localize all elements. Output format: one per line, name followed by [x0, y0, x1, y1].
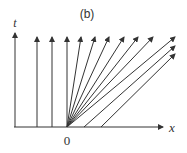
parallel-characteristics	[84, 46, 175, 127]
origin-label: 0	[64, 133, 71, 148]
fan-characteristics	[67, 37, 175, 127]
vertical-characteristics	[37, 37, 67, 127]
diagram-title: (b)	[80, 7, 95, 21]
x-axis-label: x	[168, 120, 175, 135]
characteristics-diagram: (b) x t 0	[0, 0, 187, 153]
t-axis-label: t	[13, 16, 17, 30]
